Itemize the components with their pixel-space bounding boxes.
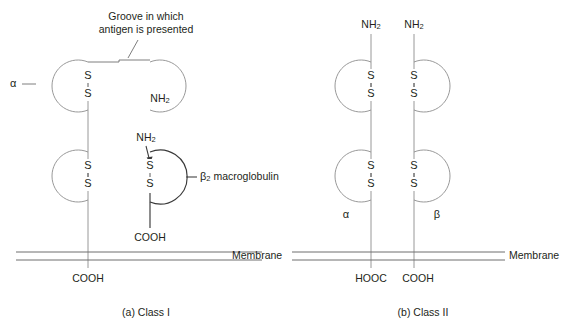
class1-b2m-carboxyl: COOH	[134, 231, 166, 244]
class1-b2m-sulfur-2: S	[144, 177, 155, 191]
class1-alpha-domain-2	[52, 150, 88, 202]
class2-alpha-amine: NH2	[361, 18, 380, 32]
amine-prefix: NH	[150, 92, 165, 104]
class1-alpha-sulfur-lower-2: S	[82, 177, 93, 191]
groove-leader-line	[128, 40, 138, 58]
class2-beta-domain-1	[414, 60, 450, 112]
groove-caption-line2: antigen is presented	[99, 23, 194, 35]
b2m-subscript: 2	[206, 174, 210, 183]
amine-subscript: 2	[166, 96, 170, 105]
class2-alpha-domain-2	[335, 150, 371, 202]
groove-caption: Groove in which antigen is presented	[99, 10, 194, 36]
antigen-groove-line	[88, 60, 150, 62]
class2-alpha-sulfur-upper-2: S	[365, 87, 376, 101]
amine-prefix: NH	[404, 18, 419, 30]
groove-caption-line1: Groove in which	[108, 10, 183, 22]
amine-prefix: NH	[361, 18, 376, 30]
class2-caption: (b) Class II	[398, 306, 449, 319]
amine-subscript: 2	[377, 22, 381, 31]
b2m-name: macroglobulin	[213, 170, 278, 182]
class2-beta-sulfur-lower-2: S	[408, 177, 419, 191]
class1-alpha-sulfur-upper-1: S	[82, 69, 93, 83]
class2-beta-amine: NH2	[404, 18, 423, 32]
class2-beta-sulfur-lower-1: S	[408, 159, 419, 173]
amine-prefix: NH	[136, 131, 151, 143]
class2-alpha-carboxyl: HOOC	[355, 272, 387, 285]
class2-beta-carboxyl: COOH	[402, 272, 434, 285]
class2-alpha-sulfur-upper-1: S	[365, 69, 376, 83]
amine-subscript: 2	[420, 22, 424, 31]
class1-alpha-sulfur-upper-2: S	[82, 87, 93, 101]
class1-alpha-carboxyl: COOH	[72, 272, 104, 285]
class1-alpha-chain-label: α	[10, 77, 16, 91]
class2-beta-domain-2	[414, 150, 450, 202]
class2-alpha-sulfur-lower-2: S	[365, 177, 376, 191]
class2-beta-chain-label: β	[434, 208, 440, 222]
class2-alpha-domain-1	[335, 60, 371, 112]
b2m-label: β2 macroglobulin	[200, 170, 279, 184]
class1-membrane-label: Membrane	[232, 249, 282, 262]
class2-alpha-sulfur-lower-1: S	[365, 159, 376, 173]
class1-b2m-amine-lower: NH2	[136, 131, 155, 145]
class2-membrane-label: Membrane	[509, 249, 559, 262]
class1-b2m-sulfur-1: S	[144, 159, 155, 173]
class1-alpha-sulfur-lower-1: S	[82, 159, 93, 173]
amine-subscript: 2	[152, 135, 156, 144]
class2-alpha-chain-label: α	[343, 208, 349, 222]
class2-beta-sulfur-upper-2: S	[408, 87, 419, 101]
class1-caption: (a) Class I	[122, 306, 170, 319]
class2-beta-sulfur-upper-1: S	[408, 69, 419, 83]
class1-b2m-amine-upper: NH2	[150, 92, 169, 106]
class1-alpha-domain-1	[52, 60, 88, 112]
